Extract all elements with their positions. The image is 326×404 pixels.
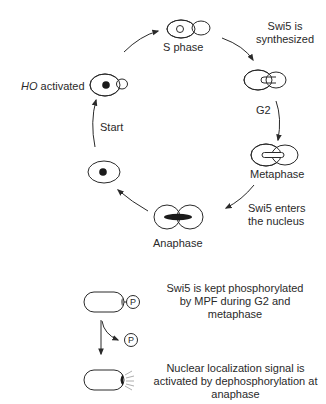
- g1-cell-icon: [88, 161, 120, 183]
- arrow-to-metaphase-icon: [276, 101, 280, 140]
- swi5-enters-line1: Swi5 enters: [248, 202, 305, 215]
- ho-activated-text: activated: [38, 80, 85, 92]
- active-nls-swi5-icon: [84, 370, 134, 390]
- ho-gene-name: HO: [21, 80, 38, 92]
- phosphorylation-description-line2: by MPF during G2 and: [160, 295, 310, 308]
- swi5-enters-line2: the nucleus: [248, 215, 305, 228]
- phosphate-symbol-released: P: [125, 334, 137, 346]
- s-phase-label: S phase: [163, 41, 203, 54]
- metaphase-cell-icon: [251, 144, 298, 166]
- nls-description-line2: activated by dephosphorylation at: [148, 375, 323, 388]
- arrow-to-g1-icon: [118, 190, 148, 211]
- ho-activated-cell-icon: [90, 74, 128, 96]
- swi5-synthesized-line1: Swi5 is: [250, 20, 320, 33]
- arrow-start-icon: [93, 100, 96, 147]
- phosphate-release-arrow-icon: [102, 321, 118, 340]
- phosphorylation-description-line1: Swi5 is kept phosphorylated: [160, 282, 310, 295]
- swi5-synthesized-label: Swi5 is synthesized: [250, 20, 320, 46]
- phosphate-symbol-bound: P: [127, 296, 139, 308]
- nls-activation-description: Nuclear localization signal is activated…: [148, 362, 323, 401]
- s-phase-cell-icon: [167, 20, 210, 38]
- metaphase-label: Metaphase: [250, 168, 304, 181]
- nls-description-line3: anaphase: [148, 388, 323, 401]
- nls-description-line1: Nuclear localization signal is: [148, 362, 323, 375]
- g2-cell-icon: [244, 70, 286, 90]
- start-label: Start: [100, 121, 123, 134]
- anaphase-cell-icon: [154, 205, 203, 229]
- phosphorylation-description-line3: metaphase: [160, 308, 310, 321]
- swi5-synthesized-line2: synthesized: [250, 33, 320, 46]
- g2-label: G2: [256, 104, 271, 117]
- arrow-to-g2-icon: [222, 38, 253, 60]
- ho-activated-label: HO activated: [21, 80, 85, 93]
- phosphorylation-description: Swi5 is kept phosphorylated by MPF durin…: [160, 282, 310, 321]
- anaphase-label: Anaphase: [153, 237, 203, 250]
- swi5-enters-nucleus-label: Swi5 enters the nucleus: [248, 202, 305, 228]
- arrow-to-s-phase-icon: [124, 31, 158, 52]
